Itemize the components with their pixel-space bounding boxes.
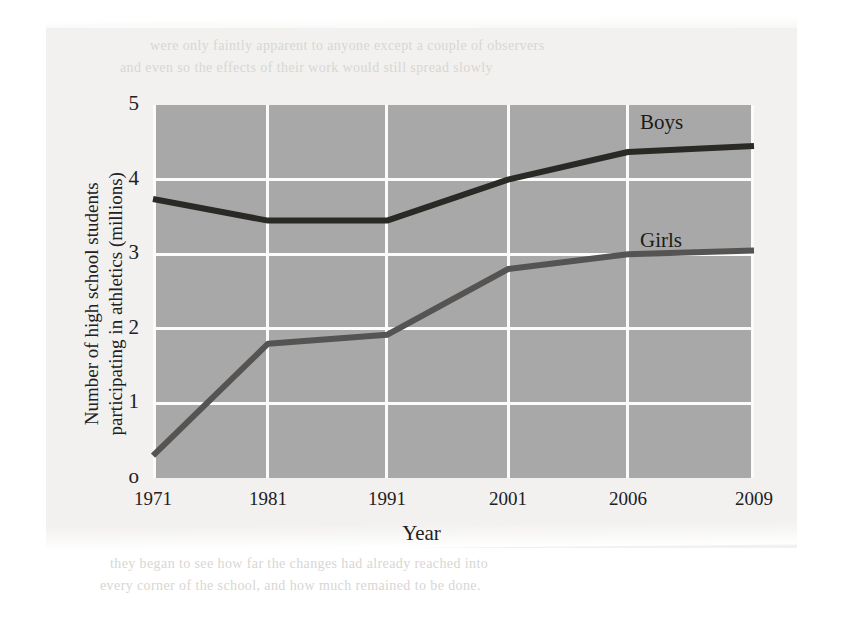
series-line-boys — [153, 146, 754, 221]
series-label-boys: Boys — [640, 110, 683, 135]
y-axis-title-line1: Number of high school students — [80, 124, 104, 484]
x-axis-title: Year — [0, 521, 843, 546]
plot-area — [153, 105, 754, 478]
x-tick-label-2006: 2006 — [583, 488, 673, 510]
x-tick-label-1971: 1971 — [108, 488, 198, 510]
x-tick-label-2009: 2009 — [709, 488, 799, 510]
y-axis-title: Number of high school students participa… — [80, 124, 128, 484]
series-lines — [153, 105, 754, 478]
y-axis-title-line2: participating in athletics (millions) — [104, 124, 128, 484]
y-tick-label-5: 5 — [99, 91, 139, 116]
x-tick-label-2001: 2001 — [463, 488, 553, 510]
series-line-girls — [153, 251, 754, 456]
x-tick-label-1991: 1991 — [342, 488, 432, 510]
x-tick-label-1981: 1981 — [223, 488, 313, 510]
page-root: were only faintly apparent to anyone exc… — [0, 0, 843, 617]
line-chart: o12345 197119811991200120062009 Number o… — [0, 0, 843, 617]
series-label-girls: Girls — [640, 228, 682, 253]
